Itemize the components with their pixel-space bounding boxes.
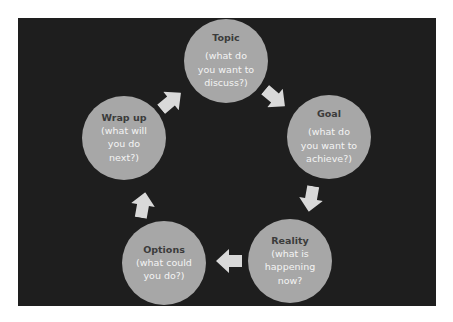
node-line: discuss?) — [204, 76, 248, 90]
node-line: achieve?) — [306, 152, 352, 166]
node-title: Wrap up — [101, 112, 146, 124]
node-line: you want to — [198, 63, 254, 77]
node-line: (what will — [101, 124, 147, 138]
node-line: you do?) — [143, 269, 184, 283]
node-line: (what is — [271, 247, 309, 261]
node-line: next?) — [109, 151, 139, 165]
node-topic: Topic (what do you want to discuss?) — [184, 19, 268, 103]
node-reality: Reality (what is happening now? — [248, 219, 332, 303]
node-line: now? — [278, 274, 303, 288]
node-options: Options (what could you do?) — [122, 221, 206, 305]
node-line: (what do — [308, 125, 350, 139]
node-line: (what could — [136, 256, 192, 270]
node-title: Goal — [317, 108, 341, 120]
node-wrapup: Wrap up (what will you do next?) — [82, 96, 166, 180]
node-line: you want to — [301, 139, 357, 153]
node-line: you do — [108, 137, 140, 151]
node-title: Topic — [212, 32, 239, 44]
node-goal: Goal (what do you want to achieve?) — [287, 95, 371, 179]
arrow-down-icon — [297, 184, 325, 214]
node-line: happening — [265, 260, 315, 274]
arrow-left-icon — [216, 249, 242, 273]
arrow-up-icon — [129, 190, 157, 220]
node-title: Options — [143, 244, 185, 256]
node-line: (what do — [205, 49, 247, 63]
node-title: Reality — [271, 235, 308, 247]
